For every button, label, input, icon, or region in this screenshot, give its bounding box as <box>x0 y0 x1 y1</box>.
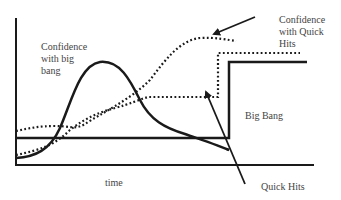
label-quick-hits: Quick Hits <box>261 181 305 193</box>
arrow-confidence-quick-hits <box>214 17 255 34</box>
label-confidence-quick-hits: Confidence with Quick Hits <box>279 14 325 50</box>
label-big-bang: Big Bang <box>245 110 283 122</box>
label-confidence-big-bang: Confidence with big bang <box>41 41 87 77</box>
x-axis-label-time: time <box>105 177 123 189</box>
pointer-big-bang <box>226 149 229 150</box>
